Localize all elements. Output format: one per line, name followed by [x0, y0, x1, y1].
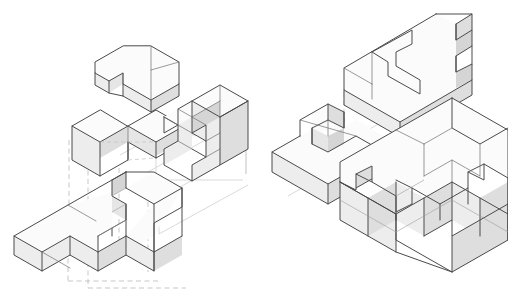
isometric-drawing-canvas: Isometric Interlocking Block Assembly Ex…: [0, 0, 508, 289]
isometric-assembly-diagram: [0, 0, 508, 289]
